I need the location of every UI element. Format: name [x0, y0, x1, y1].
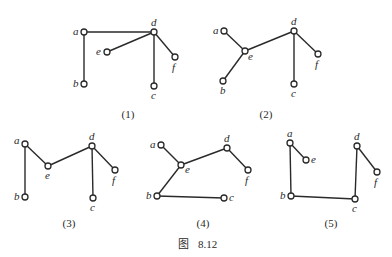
vertex-b — [154, 193, 160, 199]
vertex-label-e: e — [45, 169, 50, 181]
graph-4: aedfbc(4) — [146, 132, 251, 230]
figure-caption-prefix: 图 — [178, 238, 189, 250]
subfigure-label: (4) — [197, 217, 210, 230]
vertex-a — [81, 29, 87, 35]
vertex-b — [288, 193, 294, 199]
vertex-f — [245, 167, 251, 173]
vertex-label-a: a — [150, 138, 156, 150]
vertex-label-f: f — [374, 176, 379, 188]
vertex-b — [81, 81, 87, 87]
vertex-d — [291, 28, 297, 34]
spanning-trees-diagram: adefbc(1)adefbc(2)aedfbc(3)aedfbc(4)aedf… — [0, 0, 392, 257]
vertex-f — [374, 169, 380, 175]
vertex-label-f: f — [245, 174, 250, 186]
edge-a-e — [161, 145, 181, 165]
edge-e-b — [157, 165, 181, 196]
vertex-a — [287, 140, 293, 146]
edge-a-e — [25, 144, 48, 166]
edge-d-f — [357, 146, 377, 172]
vertex-f — [112, 167, 118, 173]
edge-c-d — [355, 146, 357, 199]
vertex-a — [158, 142, 164, 148]
vertex-a — [22, 141, 28, 147]
edge-b-c — [291, 196, 355, 199]
edge-d-f — [294, 31, 318, 54]
vertex-e — [303, 157, 309, 163]
vertex-b — [22, 194, 28, 200]
vertex-d — [151, 29, 157, 35]
vertex-label-a: a — [73, 25, 79, 37]
vertex-label-d: d — [89, 130, 95, 142]
vertex-label-b: b — [220, 84, 226, 96]
edge-e-d — [245, 31, 294, 51]
vertex-label-c: c — [229, 191, 234, 203]
vertex-label-d: d — [354, 130, 360, 142]
vertex-e — [178, 162, 184, 168]
vertex-label-d: d — [224, 132, 230, 144]
graph-1: adefbc(1) — [73, 16, 178, 121]
vertex-d — [89, 143, 95, 149]
vertex-e — [104, 49, 110, 55]
vertex-label-e: e — [96, 45, 101, 57]
vertex-label-f: f — [112, 174, 117, 186]
edge-a-e — [224, 31, 245, 51]
vertex-label-a: a — [213, 24, 219, 36]
subfigure-label: (5) — [325, 217, 338, 230]
edge-a-b — [290, 143, 291, 196]
edge-e-b — [223, 51, 245, 81]
subfigure-label: (2) — [260, 108, 273, 121]
graph-5: aedfbc(5) — [280, 127, 380, 230]
edge-d-f — [92, 146, 115, 170]
vertex-label-d: d — [151, 16, 157, 28]
edge-e-d — [107, 32, 154, 52]
vertex-label-c: c — [352, 202, 357, 214]
vertex-d — [224, 145, 230, 151]
graph-2: adefbc(2) — [213, 15, 321, 121]
vertex-label-b: b — [280, 189, 286, 201]
subfigure-label: (1) — [122, 108, 135, 121]
graphs-layer: adefbc(1)adefbc(2)aedfbc(3)aedfbc(4)aedf… — [14, 15, 380, 230]
vertex-label-b: b — [14, 190, 20, 202]
vertex-label-d: d — [291, 15, 297, 27]
vertex-label-c: c — [291, 87, 296, 99]
vertex-label-e: e — [311, 153, 316, 165]
edge-b-c — [157, 196, 224, 198]
subfigure-label: (3) — [63, 217, 76, 230]
edge-e-d — [48, 146, 92, 166]
graph-3: aedfbc(3) — [14, 130, 118, 230]
vertex-label-f: f — [315, 58, 320, 70]
edge-d-c — [92, 146, 93, 198]
vertex-label-a: a — [14, 134, 20, 146]
edge-d-f — [227, 148, 248, 170]
vertex-c — [221, 195, 227, 201]
vertex-label-b: b — [146, 189, 152, 201]
edge-d-f — [154, 32, 175, 57]
vertex-label-c: c — [151, 89, 156, 101]
vertex-label-c: c — [90, 201, 95, 213]
figure-8-12: adefbc(1)adefbc(2)aedfbc(3)aedfbc(4)aedf… — [0, 0, 392, 257]
vertex-d — [354, 143, 360, 149]
vertex-f — [315, 51, 321, 57]
vertex-f — [172, 54, 178, 60]
vertex-label-e: e — [248, 50, 253, 62]
vertex-a — [221, 28, 227, 34]
vertex-label-e: e — [185, 163, 190, 175]
vertex-label-b: b — [73, 77, 79, 89]
vertex-label-a: a — [287, 127, 293, 139]
figure-caption-number: 8.12 — [198, 238, 217, 250]
vertex-label-f: f — [172, 61, 177, 73]
